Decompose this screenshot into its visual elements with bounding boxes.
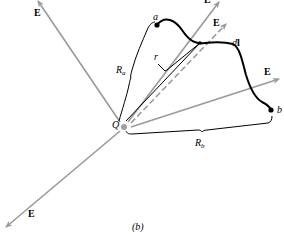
charge-q-label: Q (112, 120, 119, 130)
segment-dl-label: dl (232, 38, 240, 48)
point-b-label: b (277, 105, 282, 115)
point-b-dot (268, 107, 273, 112)
field-arrow-dashed (131, 24, 226, 123)
Ra-label: Ra (116, 65, 126, 77)
segment-l: l (237, 37, 240, 48)
field-label-upper-left: E (34, 8, 41, 18)
radius-r-label: r (154, 52, 158, 62)
Ra-sub: a (122, 69, 126, 77)
Rb-sub: b (201, 142, 205, 150)
field-label-dashed: E (213, 18, 220, 28)
diagram-canvas: E E E E E a b dl r Ra Rb Q (b) (0, 0, 284, 237)
field-arrow-upper-left (38, 1, 120, 122)
Rb-label: Rb (195, 138, 205, 150)
field-label-upper-right: E (204, 0, 211, 5)
point-a-label: a (153, 12, 158, 22)
field-label-right: E (264, 67, 271, 77)
point-a-dot (154, 22, 159, 27)
field-arrow-lower-left (6, 131, 120, 227)
field-arrow-right (131, 79, 279, 127)
field-label-lower-left: E (28, 209, 35, 219)
diagram-graphics (0, 0, 284, 237)
charge-q-dot (121, 124, 127, 130)
Rb-bracket (126, 116, 272, 134)
figure-caption: (b) (132, 222, 144, 232)
